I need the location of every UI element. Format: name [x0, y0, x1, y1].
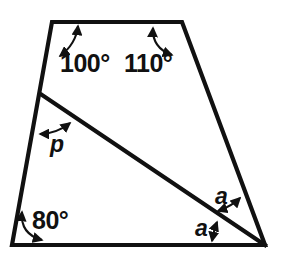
geometry-figure: 100° 110° 80° p a a: [0, 0, 281, 264]
angle-label-top-right: 110°: [124, 51, 172, 76]
angle-label-p: p: [50, 133, 64, 156]
angle-label-a-upper: a: [215, 185, 228, 208]
angle-label-bottom-left: 80°: [32, 208, 68, 233]
angle-label-top-left: 100°: [60, 51, 110, 76]
diagonal-segment: [42, 95, 265, 245]
angle-label-a-lower: a: [195, 217, 208, 240]
angle-arc-a-lower-icon: [212, 222, 217, 241]
